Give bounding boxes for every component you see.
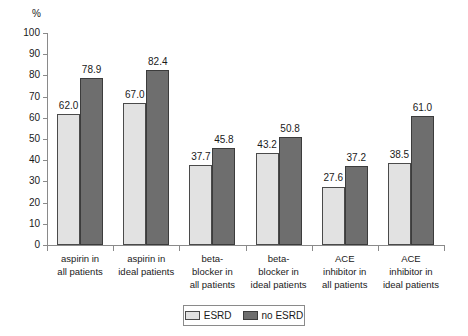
bar-esrd bbox=[123, 103, 146, 245]
y-axis-tick: 10 bbox=[0, 224, 47, 225]
legend-entry: no ESRD bbox=[243, 310, 304, 322]
y-axis-tick-label: 50 bbox=[29, 132, 40, 145]
bar-chart: % 1009080706050403020100 62.078.967.082.… bbox=[0, 0, 468, 336]
y-axis-tick-label: 70 bbox=[29, 90, 40, 103]
bar-value-label: 67.0 bbox=[117, 89, 152, 101]
category-label-line: ideal patients bbox=[242, 278, 316, 291]
x-axis-category-label: ACEinhibitor inall patients bbox=[308, 252, 382, 291]
bar-value-label: 43.2 bbox=[250, 139, 285, 151]
y-axis-tick: 20 bbox=[0, 203, 47, 204]
y-axis-tick: 40 bbox=[0, 160, 47, 161]
x-axis-category-label: aspirin inideal patients bbox=[109, 252, 183, 278]
category-label-line: inhibitor in bbox=[308, 265, 382, 278]
bar-value-label: 61.0 bbox=[405, 102, 440, 114]
y-axis-tick: 90 bbox=[0, 54, 47, 55]
category-label-line: blocker in bbox=[242, 265, 316, 278]
category-label-line: aspirin in bbox=[109, 252, 183, 265]
bar-esrd bbox=[388, 163, 411, 245]
y-axis-tick-label: 0 bbox=[34, 238, 40, 251]
bar-value-label: 62.0 bbox=[51, 100, 86, 112]
x-axis-separator-tick bbox=[179, 246, 180, 251]
y-axis-tick-label: 90 bbox=[29, 47, 40, 60]
y-axis-tick-label: 30 bbox=[29, 174, 40, 187]
x-axis-separator-tick bbox=[47, 246, 48, 251]
y-axis-unit-label: % bbox=[32, 8, 41, 20]
y-axis-tick: 70 bbox=[0, 97, 47, 98]
category-label-line: all patients bbox=[175, 278, 249, 291]
bar-esrd bbox=[57, 114, 80, 245]
bar-value-label: 27.6 bbox=[316, 172, 351, 184]
x-axis-category-label: ACEinhibitor inideal patients bbox=[374, 252, 448, 291]
category-label-line: ideal patients bbox=[374, 278, 448, 291]
category-label-line: ideal patients bbox=[109, 265, 183, 278]
x-axis-separator-tick bbox=[113, 246, 114, 251]
bar-no-esrd bbox=[411, 116, 434, 245]
bar-value-label: 50.8 bbox=[273, 123, 308, 135]
category-label-line: blocker in bbox=[175, 265, 249, 278]
legend-label: ESRD bbox=[204, 310, 232, 322]
y-axis-tick-label: 80 bbox=[29, 68, 40, 81]
y-axis-tick-label: 60 bbox=[29, 111, 40, 124]
y-axis-tick: 80 bbox=[0, 75, 47, 76]
legend-swatch-esrd bbox=[185, 311, 200, 320]
category-label-line: beta- bbox=[175, 252, 249, 265]
y-axis-tick: 100 bbox=[0, 33, 47, 34]
bar-esrd bbox=[189, 165, 212, 245]
y-axis-tick-label: 100 bbox=[23, 26, 40, 39]
y-axis-tick: 0 bbox=[0, 245, 47, 246]
x-axis-category-label: beta-blocker inall patients bbox=[175, 252, 249, 291]
bar-value-label: 37.2 bbox=[339, 152, 374, 164]
bar-value-label: 78.9 bbox=[74, 64, 109, 76]
legend-entry: ESRD bbox=[185, 310, 232, 322]
bar-esrd bbox=[256, 153, 279, 245]
legend-swatch-noesrd bbox=[243, 311, 258, 320]
bar-no-esrd bbox=[279, 137, 302, 245]
category-label-line: aspirin in bbox=[43, 252, 117, 265]
y-axis-tick: 60 bbox=[0, 118, 47, 119]
x-axis-separator-tick bbox=[444, 246, 445, 251]
category-label-line: inhibitor in bbox=[374, 265, 448, 278]
category-label-line: ACE bbox=[374, 252, 448, 265]
category-label-line: all patients bbox=[43, 265, 117, 278]
category-label-line: all patients bbox=[308, 278, 382, 291]
x-axis-category-label: beta-blocker inideal patients bbox=[242, 252, 316, 291]
bar-value-label: 37.7 bbox=[183, 151, 218, 163]
category-label-line: beta- bbox=[242, 252, 316, 265]
y-axis-tick: 30 bbox=[0, 181, 47, 182]
bar-value-label: 82.4 bbox=[140, 56, 175, 68]
y-axis-tick: 50 bbox=[0, 139, 47, 140]
y-axis-tick-label: 10 bbox=[29, 217, 40, 230]
x-axis-separator-tick bbox=[312, 246, 313, 251]
y-axis-tick-label: 40 bbox=[29, 153, 40, 166]
legend-label: no ESRD bbox=[262, 310, 304, 322]
y-axis-tick-label: 20 bbox=[29, 196, 40, 209]
category-label-line: ACE bbox=[308, 252, 382, 265]
bar-value-label: 38.5 bbox=[382, 149, 417, 161]
x-axis-separator-tick bbox=[378, 246, 379, 251]
bar-esrd bbox=[322, 187, 345, 246]
bar-value-label: 45.8 bbox=[206, 134, 241, 146]
chart-legend: ESRDno ESRD bbox=[183, 305, 305, 326]
x-axis-separator-tick bbox=[246, 246, 247, 251]
x-axis-category-label: aspirin inall patients bbox=[43, 252, 117, 278]
